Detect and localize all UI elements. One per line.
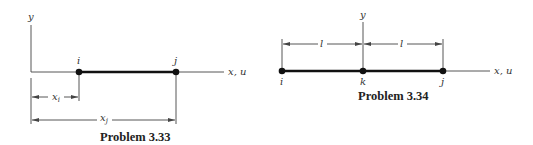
caption: Problem 3.33: [100, 130, 171, 144]
node-j-label: j: [172, 55, 177, 66]
dimension-l-left: l: [283, 38, 362, 49]
dimension-l-right: l: [364, 38, 442, 49]
node-j-label: j: [439, 76, 444, 87]
node-i: [279, 68, 286, 75]
node-i: [76, 69, 83, 76]
x-axis-label: x, u: [228, 66, 246, 77]
y-axis-label: y: [359, 9, 366, 20]
figure-problem-3-34: y x, u i k j l l Problem 3.34: [279, 9, 513, 103]
x-axis-label: x, u: [494, 65, 512, 76]
node-k: [360, 68, 367, 75]
node-j: [440, 68, 447, 75]
svg-text:l: l: [320, 38, 323, 49]
figure-problem-3-33: y x, u i j xi xj Problem 3.33: [27, 11, 246, 144]
dimension-xj: xj: [32, 112, 175, 125]
svg-text:xj: xj: [100, 112, 109, 125]
svg-text:xi: xi: [52, 91, 60, 104]
y-axis-label: y: [27, 11, 34, 22]
dimension-xi: xi: [32, 91, 78, 104]
node-k-label: k: [360, 76, 366, 87]
node-i-label: i: [280, 76, 283, 87]
node-j: [173, 69, 180, 76]
svg-text:l: l: [400, 38, 403, 49]
caption: Problem 3.34: [358, 89, 429, 103]
node-i-label: i: [77, 55, 80, 66]
